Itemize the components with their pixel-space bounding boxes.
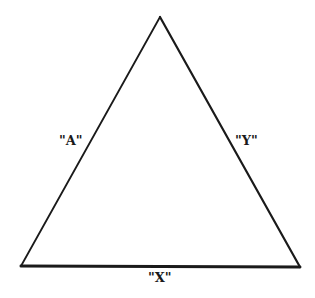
triangle-graphic <box>0 0 315 298</box>
side-left-line <box>21 17 160 266</box>
side-label-y: "Y" <box>235 134 258 147</box>
side-right-line <box>160 17 300 267</box>
side-base-line <box>21 266 300 267</box>
triangle-diagram: "A" "Y" "X" <box>0 0 315 298</box>
side-label-x: "X" <box>148 271 172 284</box>
side-label-a: "A" <box>59 134 83 147</box>
